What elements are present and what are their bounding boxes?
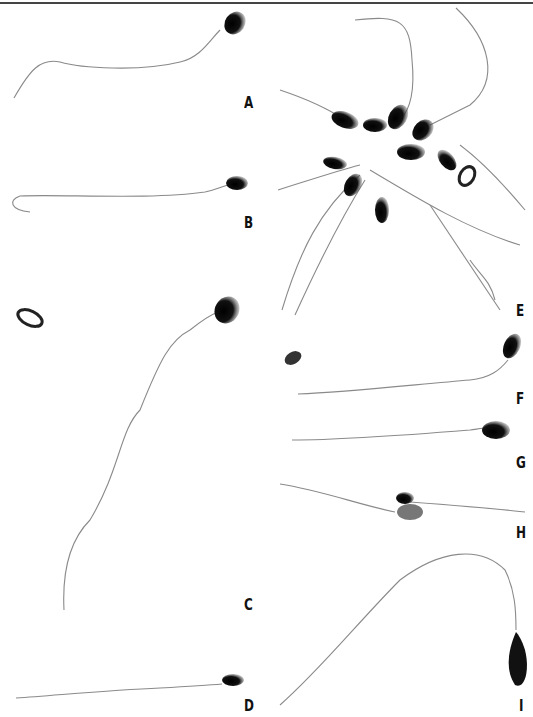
panel-label-b: B <box>244 214 253 232</box>
panel-label-g: G <box>516 454 526 472</box>
panel-label-i: I <box>519 697 523 715</box>
panel-label-f: F <box>516 390 524 408</box>
panel-label-c: C <box>244 596 253 614</box>
panel-label-a: A <box>244 94 253 112</box>
panel-label-h: H <box>516 524 526 542</box>
panel-label-e: E <box>516 302 524 320</box>
tail-a <box>14 30 220 98</box>
panel-label-d: D <box>244 697 254 715</box>
head-a <box>220 7 250 38</box>
micrograph-figure <box>0 0 533 717</box>
cell-debris <box>15 306 44 330</box>
